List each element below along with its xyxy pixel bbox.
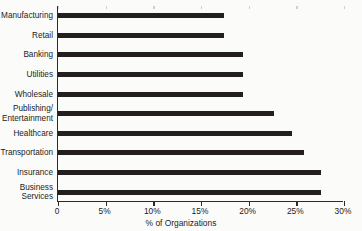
- x-axis-tick: [153, 201, 154, 206]
- bar: [58, 92, 243, 97]
- bar: [58, 111, 274, 116]
- x-axis-tick-label: 30%: [323, 206, 362, 216]
- y-axis-label: Insurance: [0, 168, 53, 177]
- x-axis-tick: [106, 201, 107, 206]
- x-axis-tick: [249, 201, 250, 206]
- x-axis-tick: [58, 201, 59, 206]
- bar: [58, 150, 304, 155]
- bar: [58, 131, 292, 136]
- bar-row: [58, 182, 343, 202]
- x-axis-tick-label: 15%: [180, 206, 220, 216]
- y-axis-label: Banking: [0, 50, 53, 59]
- x-axis-tick-top: [153, 6, 154, 9]
- x-axis-tick-label: 0: [37, 206, 77, 216]
- x-axis-tick-label: 10%: [132, 206, 172, 216]
- x-axis-tick-top: [201, 6, 202, 9]
- x-axis-tick: [201, 201, 202, 206]
- y-axis-label: Manufacturing: [0, 11, 53, 20]
- x-axis-title: % of Organizations: [0, 218, 362, 228]
- x-axis-tick: [344, 201, 345, 206]
- y-axis-label: Publishing/ Entertainment: [0, 104, 53, 123]
- y-axis-label: Healthcare: [0, 129, 53, 138]
- bar-row: [58, 65, 343, 85]
- y-axis-label: Wholesale: [0, 90, 53, 99]
- x-axis-tick-top: [249, 6, 250, 9]
- x-axis-tick-top: [58, 6, 59, 9]
- bar: [58, 13, 224, 18]
- y-axis-label: Business Services: [0, 183, 53, 202]
- bar: [58, 52, 243, 57]
- x-axis-tick-label: 5%: [85, 206, 125, 216]
- bar-chart: ManufacturingRetailBankingUtilitiesWhole…: [0, 0, 362, 231]
- x-axis-tick-top: [344, 6, 345, 9]
- bar-row: [58, 45, 343, 65]
- x-axis-tick-label: 20%: [228, 206, 268, 216]
- x-axis-tick: [296, 201, 297, 206]
- bar-row: [58, 124, 343, 144]
- x-axis-tick-top: [296, 6, 297, 9]
- bar-row: [58, 143, 343, 163]
- bar-row: [58, 104, 343, 124]
- y-axis-label: Retail: [0, 31, 53, 40]
- bar-row: [58, 26, 343, 46]
- bar: [58, 72, 243, 77]
- bar: [58, 190, 321, 195]
- y-axis-label: Transportation: [0, 148, 53, 157]
- bar-row: [58, 163, 343, 183]
- bar: [58, 33, 224, 38]
- x-axis-tick-top: [106, 6, 107, 9]
- plot-area: [57, 6, 343, 202]
- bar: [58, 170, 321, 175]
- y-axis-label: Utilities: [0, 70, 53, 79]
- x-axis-tick-label: 25%: [275, 206, 315, 216]
- bar-row: [58, 84, 343, 104]
